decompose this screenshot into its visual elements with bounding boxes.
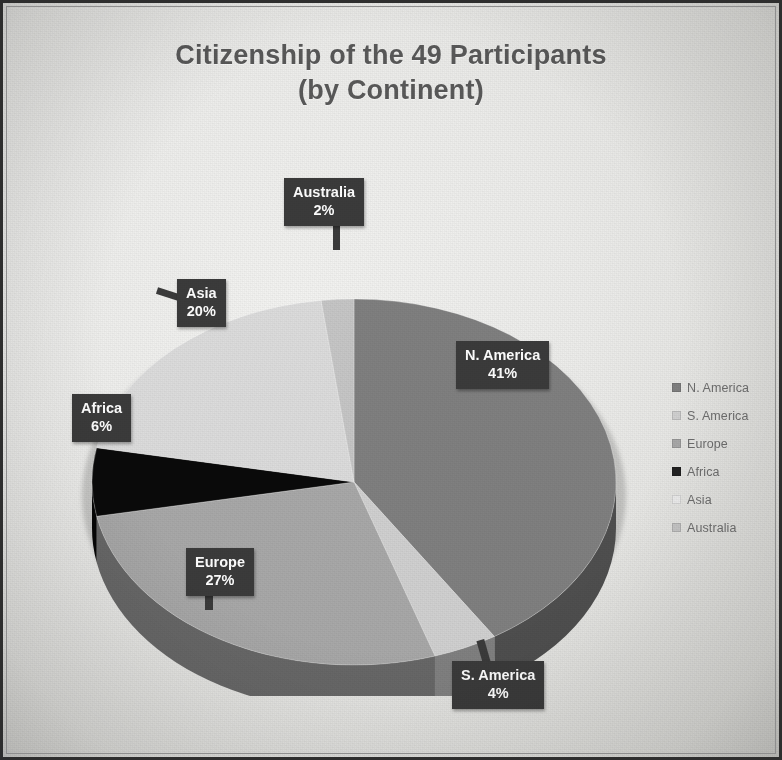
- callout-n-america: N. America 41%: [456, 341, 549, 389]
- legend-swatch-africa: [672, 467, 681, 476]
- callout-australia-value: 2%: [293, 202, 355, 220]
- callout-asia-name: Asia: [186, 285, 217, 303]
- pie-chart-svg: [56, 196, 646, 696]
- callout-australia-name: Australia: [293, 184, 355, 202]
- callout-australia: Australia 2%: [284, 178, 364, 226]
- callout-africa-value: 6%: [81, 418, 122, 436]
- legend-label-europe: Europe: [687, 437, 728, 451]
- leader-line-australia: [333, 224, 340, 250]
- callout-europe-name: Europe: [195, 554, 245, 572]
- legend-swatch-asia: [672, 495, 681, 504]
- callout-n-america-name: N. America: [465, 347, 540, 365]
- callout-s-america-name: S. America: [461, 667, 535, 685]
- legend-item-australia: Australia: [672, 518, 776, 537]
- chart-title-line-2: (by Continent): [0, 73, 782, 108]
- legend-item-n-america: N. America: [672, 378, 776, 397]
- legend-swatch-s-america: [672, 411, 681, 420]
- chart-legend: N. America S. America Europe Africa Asia…: [672, 378, 776, 546]
- chart-screenshot: Citizenship of the 49 Participants (by C…: [0, 0, 782, 760]
- leader-line-europe: [205, 594, 213, 610]
- callout-n-america-value: 41%: [465, 365, 540, 383]
- callout-africa-name: Africa: [81, 400, 122, 418]
- callout-europe-value: 27%: [195, 572, 245, 590]
- legend-swatch-australia: [672, 523, 681, 532]
- legend-label-africa: Africa: [687, 465, 720, 479]
- legend-item-asia: Asia: [672, 490, 776, 509]
- pie-chart: [56, 196, 646, 696]
- legend-item-s-america: S. America: [672, 406, 776, 425]
- callout-asia: Asia 20%: [177, 279, 226, 327]
- chart-title-line-1: Citizenship of the 49 Participants: [0, 38, 782, 73]
- legend-swatch-europe: [672, 439, 681, 448]
- callout-s-america-value: 4%: [461, 685, 535, 703]
- legend-label-australia: Australia: [687, 521, 737, 535]
- legend-label-asia: Asia: [687, 493, 712, 507]
- chart-title: Citizenship of the 49 Participants (by C…: [0, 38, 782, 107]
- callout-s-america: S. America 4%: [452, 661, 544, 709]
- callout-europe: Europe 27%: [186, 548, 254, 596]
- legend-label-s-america: S. America: [687, 409, 748, 423]
- legend-item-europe: Europe: [672, 434, 776, 453]
- callout-asia-value: 20%: [186, 303, 217, 321]
- legend-label-n-america: N. America: [687, 381, 749, 395]
- callout-africa: Africa 6%: [72, 394, 131, 442]
- legend-item-africa: Africa: [672, 462, 776, 481]
- legend-swatch-n-america: [672, 383, 681, 392]
